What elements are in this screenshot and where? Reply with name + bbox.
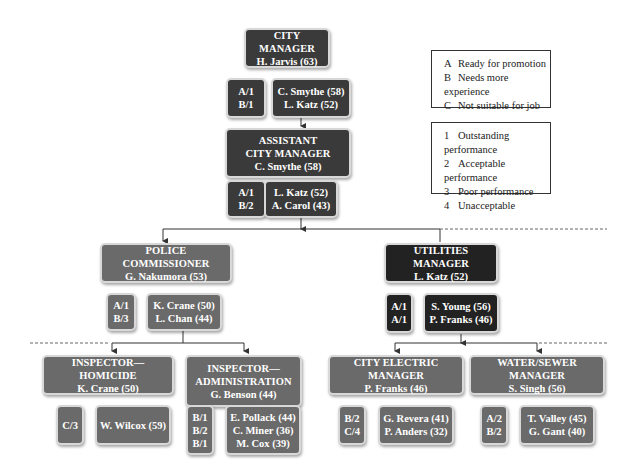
inspector-administration-ratings: B/1 B/2 B/1 [186,405,214,455]
legend-item: 3Poor performance [444,185,550,199]
assistant-city-manager-candidates: L. Katz (52) A. Carol (43) [264,180,338,218]
inspector-homicide-ratings: C/3 [56,405,84,445]
legend-item: AReady for promotion [444,57,550,71]
city-manager-box: CITY MANAGER H. Jarvis (63) [244,28,330,68]
legend-item: 4Unacceptable [444,199,550,213]
police-commissioner-ratings: A/1 B/3 [106,293,136,331]
rating-legend: AReady for promotion BNeeds more experie… [431,50,551,108]
city-electric-manager-candidates: G. Revera (41) P. Anders (32) [378,405,454,445]
utilities-manager-ratings: A/1 A/1 [385,293,413,333]
inspector-homicide-box: INSPECTOR—HOMICIDE K. Crane (50) [42,355,174,395]
city-electric-manager-ratings: B/2 C/4 [338,405,366,445]
legend-item: 2Acceptable performance [444,157,550,185]
police-commissioner-candidates: K. Crane (50) L. Chan (44) [146,293,222,331]
inspector-homicide-candidates: W. Wilcox (59) [95,405,171,445]
legend-item: BNeeds more experience [444,71,550,99]
inspector-administration-candidates: E. Pollack (44) C. Miner (36) M. Cox (39… [225,405,301,455]
utilities-manager-box: UTILITIES MANAGER L. Katz (52) [384,243,498,283]
inspector-administration-box: INSPECTOR— ADMINISTRATION G. Benson (44) [185,355,302,407]
water-sewer-manager-ratings: A/2 B/2 [480,405,508,445]
city-manager-ratings: A/1 B/1 [226,78,266,118]
police-commissioner-box: POLICE COMMISSIONER G. Nakumora (53) [100,243,232,283]
legend-item: 1Outstanding performance [444,129,550,157]
performance-legend: 1Outstanding performance 2Acceptable per… [431,122,551,194]
city-electric-manager-box: CITY ELECTRIC MANAGER P. Franks (46) [328,355,464,395]
city-manager-candidates: C. Smythe (58) L. Katz (52) [271,78,351,118]
water-sewer-manager-candidates: T. Valley (45) G. Gant (40) [519,405,595,445]
utilities-manager-candidates: S. Young (56) P. Franks (46) [423,293,499,333]
water-sewer-manager-box: WATER/SEWER MANAGER S. Singh (56) [469,355,605,395]
legend-item: CNot suitable for job [444,99,550,113]
assistant-city-manager-ratings: A/1 B/2 [226,180,266,218]
assistant-city-manager-box: ASSISTANT CITY MANAGER C. Smythe (58) [225,128,351,178]
